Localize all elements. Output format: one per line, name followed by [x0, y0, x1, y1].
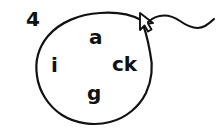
- letter-i: i: [51, 55, 58, 75]
- wavy-line-icon: [148, 16, 214, 29]
- letter-ck: ck: [112, 54, 137, 74]
- letter-a: a: [89, 27, 103, 47]
- item-number: 4: [26, 9, 40, 29]
- letter-g: g: [87, 83, 101, 103]
- drawing-canvas: 4 a i ck g: [0, 0, 218, 129]
